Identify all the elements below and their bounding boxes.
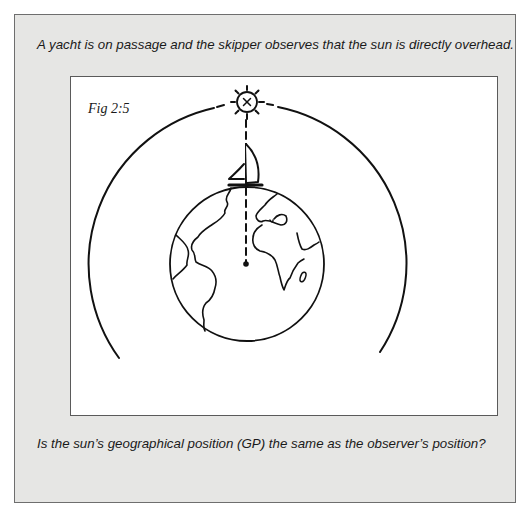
scenario-text: A yacht is on passage and the skipper ob… <box>37 37 514 52</box>
figure-panel: Fig 2:5 <box>70 76 498 416</box>
question-card: A yacht is on passage and the skipper ob… <box>14 14 516 503</box>
globe-icon <box>170 187 324 341</box>
question-text: Is the sun’s geographical position (GP) … <box>37 436 486 451</box>
yacht-icon <box>229 144 262 186</box>
earth-center-dot <box>243 261 249 267</box>
sun-icon <box>231 86 264 119</box>
figure-diagram <box>71 77 499 417</box>
